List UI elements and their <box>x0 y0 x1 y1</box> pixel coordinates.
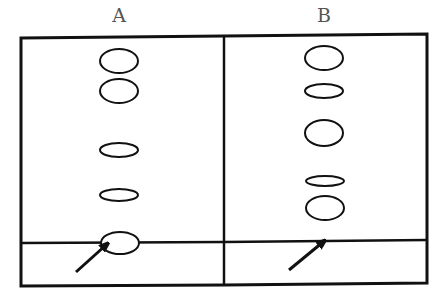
spot-a-4 <box>100 189 138 201</box>
spot-a-1 <box>100 49 138 73</box>
spot-b-5 <box>306 196 344 220</box>
baseline-b <box>224 240 427 242</box>
arrow-icon <box>76 245 106 272</box>
arrow-icon <box>289 242 323 270</box>
lane-b-spots <box>305 46 344 220</box>
spot-b-4 <box>306 176 344 186</box>
spot-a-3 <box>100 143 138 157</box>
spot-b-1 <box>305 46 343 70</box>
spot-a-2 <box>100 79 138 103</box>
spot-b-2 <box>305 84 343 98</box>
lane-a-spots <box>100 49 139 254</box>
spot-a-5 <box>101 232 139 254</box>
spot-b-3 <box>305 120 343 146</box>
chromatography-diagram <box>0 0 434 298</box>
